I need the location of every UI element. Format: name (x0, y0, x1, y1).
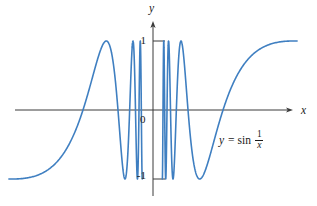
y-axis-label: y (149, 3, 154, 15)
curve-equation-label: y = sin 1 x (219, 130, 264, 151)
equation-y: y (219, 134, 224, 146)
sin-1-over-x-figure: y x 1 -1 0 y = sin 1 x (0, 0, 317, 206)
plot-svg (0, 0, 317, 206)
fraction-denominator: x (255, 140, 263, 151)
origin-label: 0 (140, 114, 146, 125)
y-tick-label-1: 1 (132, 35, 146, 46)
equation-equals-sin: = sin (228, 134, 251, 146)
y-tick-label-neg1: -1 (126, 170, 146, 181)
x-axis-label: x (301, 105, 306, 117)
fraction-numerator: 1 (255, 130, 264, 140)
equation-fraction: 1 x (255, 130, 264, 151)
